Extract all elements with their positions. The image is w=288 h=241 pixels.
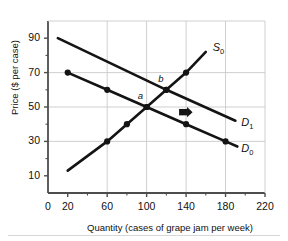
gridlines	[48, 21, 265, 193]
x-tick-label: 140	[172, 200, 200, 212]
y-tick-label: 70	[18, 66, 40, 78]
y-axis-title: Price ($ per case)	[9, 18, 20, 138]
footer-rule	[8, 235, 280, 236]
point-label-a: a	[138, 90, 143, 101]
point-label-b: b	[158, 73, 163, 84]
y-tick-label: 90	[18, 31, 40, 43]
curve-label-s0: S0	[213, 41, 225, 56]
x-tick-label: 180	[212, 200, 240, 212]
y-tick-label: 50	[18, 100, 40, 112]
x-tick-label: 220	[251, 200, 279, 212]
y-tick-label: 10	[18, 169, 40, 181]
x-tick-label: 60	[93, 200, 121, 212]
curve-label-d0: D0	[241, 142, 253, 157]
minor-tick-marks	[44, 38, 265, 197]
y-tick-label: 30	[18, 134, 40, 146]
curve-label-d1: D1	[241, 116, 253, 131]
x-tick-label: 100	[133, 200, 161, 212]
supply-demand-figure: 103050709002060100140180220 Price ($ per…	[0, 0, 288, 241]
x-tick-label: 20	[54, 200, 82, 212]
x-axis-title: Quantity (cases of grape jam per week)	[60, 222, 280, 233]
